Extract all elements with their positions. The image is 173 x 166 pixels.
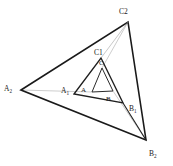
vertex-label-C: C [99, 60, 104, 67]
geometry-figure: A2 B2 C2 A1 B1 C1 A B C [0, 0, 173, 166]
vertex-label-A1-sub: 1 [66, 90, 69, 96]
vertex-label-B2-sub: 2 [154, 153, 157, 159]
vertex-label-C1: C1 [94, 49, 103, 57]
vertex-label-A-text: A [81, 86, 86, 94]
vertex-label-A: A [81, 87, 86, 94]
vertex-label-B1-sub: 1 [134, 108, 137, 114]
vertex-label-C2-text: C2 [119, 7, 128, 16]
triangle-inner-A-B-C [92, 68, 113, 92]
figure-canvas [0, 0, 173, 166]
vertex-label-C-text: C [99, 59, 104, 67]
vertex-label-B-text: B [106, 95, 111, 103]
vertex-label-B: B [106, 96, 111, 103]
vertex-label-B2: B2 [149, 150, 157, 158]
connector-C2-to-C [102, 22, 128, 68]
vertex-label-B1: B1 [129, 105, 137, 113]
vertex-label-C2: C2 [119, 8, 128, 16]
vertex-label-A1: A1 [61, 87, 69, 95]
vertex-label-A2: A2 [4, 85, 12, 93]
vertex-label-C1-text: C1 [94, 48, 103, 57]
segment-C1-to-C2 [101, 22, 128, 58]
vertex-label-A2-sub: 2 [9, 88, 12, 94]
